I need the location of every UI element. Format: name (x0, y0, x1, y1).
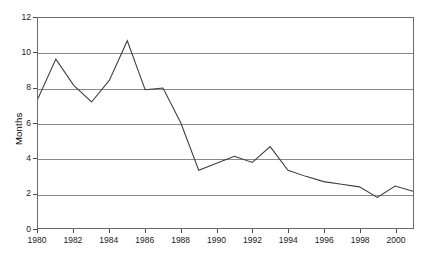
x-tick-label-1998: 1998 (351, 236, 370, 245)
x-tick-mark-1980 (37, 229, 38, 233)
series-line-months (38, 18, 413, 228)
y-axis-title: Months (13, 113, 24, 145)
x-tick-label-2000: 2000 (387, 236, 406, 245)
x-tick-label-1980: 1980 (28, 236, 47, 245)
x-tick-mark-1998 (360, 229, 361, 233)
x-tick-mark-2000 (396, 229, 397, 233)
x-tick-mark-1986 (145, 229, 146, 233)
y-tick-label-4: 4 (26, 154, 31, 163)
y-tick-label-12: 12 (22, 13, 31, 22)
x-tick-mark-1984 (109, 229, 110, 233)
x-tick-label-1986: 1986 (135, 236, 154, 245)
x-tick-label-1994: 1994 (279, 236, 298, 245)
line-chart: Months 024681012 19801982198419861988199… (0, 0, 425, 261)
y-tick-label-2: 2 (26, 189, 31, 198)
x-tick-label-1996: 1996 (315, 236, 334, 245)
x-tick-label-1990: 1990 (207, 236, 226, 245)
x-tick-mark-1990 (217, 229, 218, 233)
x-tick-mark-1988 (181, 229, 182, 233)
x-tick-mark-1994 (288, 229, 289, 233)
y-tick-label-6: 6 (26, 119, 31, 128)
y-tick-label-10: 10 (22, 48, 31, 57)
x-tick-mark-1996 (324, 229, 325, 233)
y-tick-label-8: 8 (26, 83, 31, 92)
y-tick-label-0: 0 (26, 225, 31, 234)
x-tick-label-1992: 1992 (243, 236, 262, 245)
x-tick-mark-1992 (252, 229, 253, 233)
x-tick-mark-1982 (73, 229, 74, 233)
plot-area (37, 17, 414, 229)
x-tick-label-1988: 1988 (171, 236, 190, 245)
x-tick-label-1982: 1982 (63, 236, 82, 245)
x-tick-label-1984: 1984 (99, 236, 118, 245)
